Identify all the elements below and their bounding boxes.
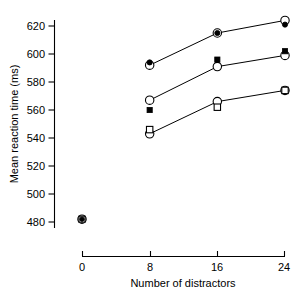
marker-open-circle — [145, 96, 153, 104]
y-axis-title: Mean reaction time (ms) — [8, 65, 20, 184]
marker-filled-circle — [282, 22, 287, 27]
marker-open-square — [214, 104, 220, 110]
data-series-layer — [78, 16, 289, 223]
chart-svg: 620 600 580 560 540 520 500 480 Mean rea… — [0, 0, 303, 291]
series-lower-open-circle — [145, 86, 289, 138]
x-tick-label-24: 24 — [278, 261, 290, 273]
y-tick-label-620: 620 — [27, 20, 45, 32]
marker-filled-circle — [215, 30, 220, 35]
x-axis-title: Number of distractors — [130, 277, 236, 289]
y-tick-label-520: 520 — [27, 160, 45, 172]
chart-figure: 620 600 580 560 540 520 500 480 Mean rea… — [0, 0, 303, 291]
x-tick-label-0: 0 — [79, 261, 85, 273]
marker-filled-circle — [80, 217, 84, 221]
marker-filled-circle — [147, 60, 152, 65]
y-tick-label-560: 560 — [27, 104, 45, 116]
x-axis: 0 8 16 24 Number of distractors — [79, 251, 290, 289]
y-tick-label-500: 500 — [27, 188, 45, 200]
marker-filled-square — [282, 49, 287, 54]
series-lower-open-square — [146, 87, 288, 133]
x-tick-label-16: 16 — [211, 261, 223, 273]
marker-open-square — [146, 126, 152, 132]
marker-open-circle — [213, 62, 221, 70]
marker-filled-square — [215, 57, 220, 62]
y-tick-label-480: 480 — [27, 216, 45, 228]
y-tick-label-540: 540 — [27, 132, 45, 144]
plot-area: 620 600 580 560 540 520 500 480 Mean rea… — [0, 0, 303, 291]
y-tick-label-580: 580 — [27, 76, 45, 88]
marker-filled-square — [147, 107, 152, 112]
series-baseline-cluster — [78, 215, 86, 223]
x-tick-label-8: 8 — [147, 261, 153, 273]
marker-open-square — [282, 87, 288, 93]
y-tick-label-600: 600 — [27, 48, 45, 60]
y-axis: 620 600 580 560 540 520 500 480 Mean rea… — [8, 20, 55, 228]
